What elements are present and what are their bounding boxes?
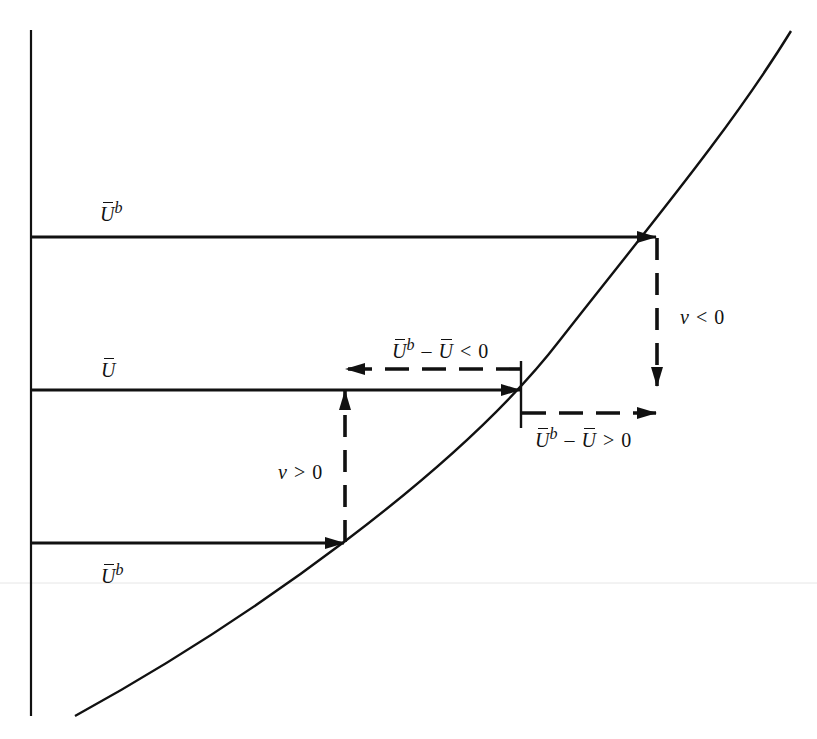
var-v: v (278, 461, 287, 483)
operator: < (696, 306, 707, 328)
symbol-u: U (392, 341, 406, 361)
symbol-u: U (101, 360, 115, 380)
symbol-u: U (581, 430, 595, 450)
label-top-ubar-b: Ub (100, 204, 122, 224)
value: 0 (312, 461, 322, 483)
velocity-profile-curve (75, 31, 791, 716)
superscript-b: b (549, 425, 557, 442)
label-v-positive: v > 0 (278, 462, 322, 482)
superscript-b: b (114, 199, 122, 216)
minus: – (421, 340, 431, 362)
superscript-b: b (406, 336, 414, 353)
label-bottom-ubar-b: Ub (101, 566, 123, 586)
operator: > (603, 429, 614, 451)
value: 0 (621, 429, 631, 451)
label-middle-ubar: U (101, 360, 115, 380)
value: 0 (714, 306, 724, 328)
label-diff-positive: Ub – U > 0 (535, 430, 631, 450)
symbol-u: U (438, 341, 452, 361)
velocity-profile-diagram (0, 0, 817, 739)
operator: > (294, 461, 305, 483)
minus: – (564, 429, 574, 451)
label-v-negative: v < 0 (680, 307, 724, 327)
operator: < (460, 340, 471, 362)
symbol-u: U (100, 204, 114, 224)
var-v: v (680, 306, 689, 328)
label-diff-negative: Ub – U < 0 (392, 341, 488, 361)
superscript-b: b (115, 561, 123, 578)
symbol-u: U (101, 566, 115, 586)
symbol-u: U (535, 430, 549, 450)
value: 0 (478, 340, 488, 362)
